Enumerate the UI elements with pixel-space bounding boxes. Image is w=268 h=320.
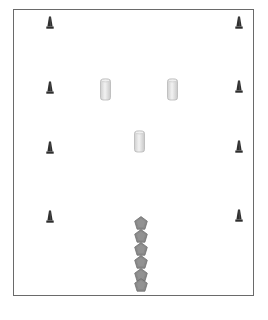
tackle-bag-icon — [134, 130, 145, 153]
cone-icon — [46, 81, 54, 94]
pentagon-marker-icon — [134, 216, 148, 230]
cone-icon — [235, 80, 243, 93]
pentagon-marker-icon — [134, 242, 148, 256]
cone-icon — [46, 16, 54, 29]
tackle-bag-icon — [100, 78, 111, 101]
cone-icon — [46, 141, 54, 154]
tackle-bag-icon — [167, 78, 178, 101]
cone-icon — [235, 140, 243, 153]
pentagon-marker-icon — [134, 255, 148, 269]
pentagon-marker-icon — [134, 229, 148, 243]
cone-icon — [46, 210, 54, 223]
cone-icon — [235, 209, 243, 222]
pentagon-marker-icon — [134, 278, 148, 292]
cone-icon — [235, 16, 243, 29]
